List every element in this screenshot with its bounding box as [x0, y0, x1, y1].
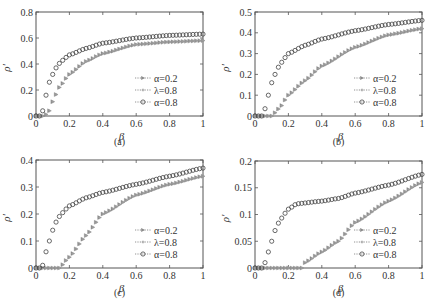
series-1	[254, 27, 424, 117]
legend-label: λ=0.8	[154, 85, 177, 96]
x-tick-label: 1	[201, 270, 206, 281]
plus-marker-icon	[142, 241, 145, 244]
x-tick-label: 0.8	[382, 118, 395, 129]
y-tick-label: 0.8	[21, 7, 34, 18]
triangle-marker-icon	[141, 76, 145, 80]
legend-label: α=0.2	[154, 225, 177, 236]
y-axis-label: ρ'	[0, 214, 12, 223]
y-tick-label: 0.5	[240, 7, 253, 18]
legend-label: λ=0.8	[154, 237, 177, 248]
y-axis-label: ρ'	[0, 64, 12, 73]
triangle-marker-icon	[360, 76, 364, 80]
x-tick-label: 0.2	[63, 118, 76, 129]
plus-marker-icon	[361, 241, 364, 244]
chart-canvas: 00.20.40.60.8100.20.40.60.8βρ'(a)α=0.2λ=…	[0, 0, 430, 308]
triangle-marker-icon	[360, 228, 364, 232]
y-tick-label: 0.15	[235, 182, 253, 193]
legend-label: α=0.8	[373, 249, 396, 260]
x-tick-label: 0.6	[349, 118, 362, 129]
figure-grid: 00.20.40.60.8100.20.40.60.8βρ'(a)α=0.2λ=…	[0, 0, 430, 308]
panel-a: 00.20.40.60.8100.20.40.60.8βρ'(a)α=0.2λ=…	[0, 7, 206, 149]
x-tick-label: 0	[34, 118, 39, 129]
y-tick-label: 0.3	[240, 48, 253, 59]
y-tick-label: 0.3	[21, 182, 34, 193]
series-2	[34, 32, 205, 118]
series-2	[253, 172, 424, 270]
panel-caption: (d)	[333, 287, 345, 299]
legend-label: λ=0.8	[373, 237, 396, 248]
y-axis-label: ρ'	[219, 214, 231, 223]
legend-label: α=0.8	[373, 97, 396, 108]
y-tick-label: 0.6	[21, 33, 34, 44]
y-tick-label: 0.4	[240, 27, 253, 38]
x-tick-label: 0.6	[130, 118, 143, 129]
triangle-marker-icon	[141, 228, 145, 232]
y-tick-label: 0	[28, 111, 33, 122]
legend: α=0.2λ=0.8α=0.8	[354, 73, 396, 108]
y-tick-label: 0.05	[235, 236, 253, 247]
series-0	[34, 174, 205, 270]
x-tick-label: 0.8	[163, 118, 176, 129]
y-tick-label: 0.2	[240, 69, 253, 80]
panel-caption: (c)	[114, 287, 125, 299]
y-tick-label: 0	[247, 263, 252, 274]
legend-label: α=0.8	[154, 249, 177, 260]
x-tick-label: 0.2	[282, 118, 295, 129]
y-tick-label: 0.1	[240, 90, 253, 101]
legend: α=0.2λ=0.8α=0.8	[354, 225, 396, 260]
panel-d: 00.20.40.60.8100.050.10.150.2βρ'(d)α=0.2…	[219, 156, 425, 300]
x-tick-label: 1	[420, 118, 425, 129]
x-tick-label: 0.8	[382, 270, 395, 281]
legend-label: α=0.8	[154, 97, 177, 108]
series-1	[35, 175, 205, 270]
x-tick-label: 0	[253, 270, 258, 281]
legend-label: α=0.2	[373, 73, 396, 84]
x-tick-label: 0.8	[163, 270, 176, 281]
x-tick-label: 0.6	[349, 270, 362, 281]
legend-label: α=0.2	[154, 73, 177, 84]
y-tick-label: 0.1	[240, 209, 253, 220]
panel-c: 00.20.40.60.8100.10.20.30.4βρ'(c)α=0.2λ=…	[0, 155, 206, 300]
panel-caption: (b)	[333, 136, 345, 148]
y-axis-label: ρ'	[219, 64, 231, 73]
x-tick-label: 1	[420, 270, 425, 281]
legend: α=0.2λ=0.8α=0.8	[135, 73, 177, 108]
x-tick-label: 0.4	[97, 118, 110, 129]
plus-marker-icon	[361, 89, 364, 92]
y-tick-label: 0.2	[240, 156, 253, 167]
x-tick-label: 0	[253, 118, 258, 129]
y-tick-label: 0.1	[21, 236, 34, 247]
x-tick-label: 1	[201, 118, 206, 129]
y-tick-label: 0.2	[21, 209, 34, 220]
plot-frame	[255, 161, 422, 268]
x-tick-label: 0.2	[63, 270, 76, 281]
series-0	[253, 27, 424, 118]
series-1	[35, 39, 205, 117]
y-tick-label: 0.4	[21, 59, 34, 70]
y-tick-label: 0.4	[21, 155, 34, 166]
x-tick-label: 0	[34, 270, 39, 281]
panel-b: 00.20.40.60.8100.10.20.30.40.5βρ'(b)α=0.…	[219, 7, 425, 149]
y-tick-label: 0	[28, 263, 33, 274]
y-tick-label: 0	[247, 111, 252, 122]
x-tick-label: 0.2	[282, 270, 295, 281]
x-tick-label: 0.6	[130, 270, 143, 281]
x-tick-label: 0.4	[316, 118, 329, 129]
x-tick-label: 0.4	[97, 270, 110, 281]
legend-label: α=0.2	[373, 225, 396, 236]
x-tick-label: 0.4	[316, 270, 329, 281]
plus-marker-icon	[142, 89, 145, 92]
legend-label: λ=0.8	[373, 85, 396, 96]
y-tick-label: 0.2	[21, 85, 34, 96]
legend: α=0.2λ=0.8α=0.8	[135, 225, 177, 260]
panel-caption: (a)	[114, 136, 125, 148]
